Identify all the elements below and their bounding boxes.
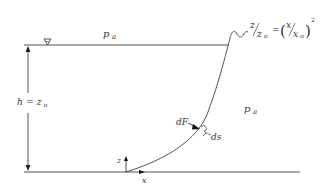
depth-dimension-arrow	[26, 46, 31, 171]
break-squiggle	[230, 31, 248, 38]
force-label: dF	[176, 117, 189, 127]
svg-text:): )	[305, 22, 311, 40]
curve-equation: z z o = ( x x o ) 2	[249, 16, 315, 40]
pressure-top-label: p a	[103, 28, 116, 41]
svg-text:z: z	[249, 20, 255, 30]
x-axis-label: x	[142, 176, 147, 185]
svg-text:(: (	[280, 22, 286, 40]
force-arrow-icon	[188, 123, 200, 130]
arc-element-bracket	[201, 125, 211, 136]
arc-element-label: ds	[211, 132, 222, 142]
svg-text:x o: x o	[293, 29, 304, 39]
pressure-right-label: p a	[244, 103, 257, 116]
svg-text:2: 2	[311, 16, 315, 23]
svg-text:x: x	[286, 20, 291, 30]
z-axis-label: z	[116, 156, 122, 165]
z-axis-arrow	[124, 156, 128, 172]
depth-label: h = z o	[17, 97, 48, 108]
parabolic-gate-diagram: h = z o p a z z o = ( x x o ) 2 p a dF	[0, 0, 327, 193]
free-surface-symbol-icon	[44, 39, 51, 45]
svg-text:=: =	[272, 25, 280, 35]
parabolic-gate-curve	[126, 38, 230, 172]
x-axis-arrow	[139, 170, 145, 174]
svg-text:z o: z o	[256, 29, 268, 39]
